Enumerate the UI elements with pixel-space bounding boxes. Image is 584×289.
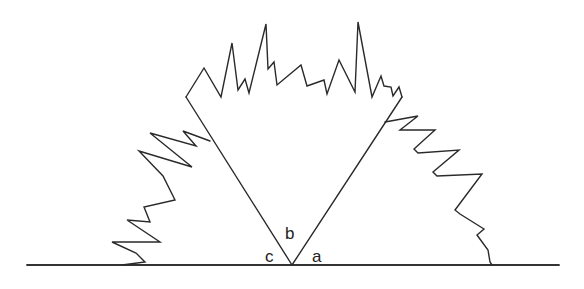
left-jagged-edge [112,131,210,265]
angle-label-b: b [285,225,294,242]
angle-label-a: a [312,248,321,265]
right-jagged-edge [385,116,492,265]
top-jagged-edge [186,22,402,97]
angle-diagram [0,0,584,289]
angle-label-c: c [265,248,274,265]
left-arm-line [186,97,292,265]
